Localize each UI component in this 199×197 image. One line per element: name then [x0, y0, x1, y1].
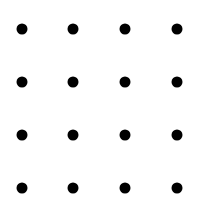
grid-dot: [120, 183, 131, 194]
grid-dot: [68, 77, 79, 88]
grid-dot: [120, 24, 131, 35]
grid-dot: [17, 130, 28, 141]
grid-dot: [172, 77, 183, 88]
grid-dot: [17, 183, 28, 194]
grid-dot: [172, 183, 183, 194]
grid-dot: [172, 130, 183, 141]
grid-dot: [68, 183, 79, 194]
grid-dot: [68, 130, 79, 141]
grid-dot: [68, 24, 79, 35]
grid-dot: [17, 77, 28, 88]
grid-dot: [17, 24, 28, 35]
grid-dot: [120, 130, 131, 141]
grid-dot: [120, 77, 131, 88]
dot-grid: [0, 0, 199, 197]
grid-dot: [172, 24, 183, 35]
